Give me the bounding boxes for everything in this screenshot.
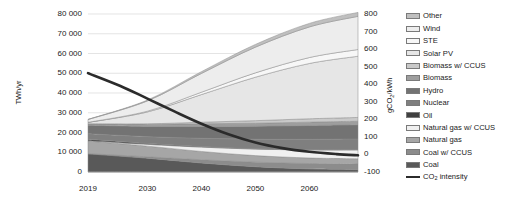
legend-item-label: Hydro (423, 87, 443, 95)
legend-item[interactable]: Natural gas (406, 134, 518, 146)
legend-color-swatch (406, 100, 420, 106)
legend-color-swatch (406, 125, 420, 131)
legend-item[interactable]: STE (406, 35, 518, 47)
legend-color-swatch (406, 50, 420, 56)
legend-color-swatch (406, 13, 420, 19)
y-axis-left-tick: 0 (36, 167, 82, 176)
legend-item-label: Natural gas (423, 136, 462, 144)
legend-item[interactable]: Solar PV (406, 47, 518, 59)
legend-color-swatch (406, 162, 420, 168)
y-axis-right-tick: 800 (364, 9, 394, 18)
legend-item-label: Wind (423, 25, 440, 33)
legend-item-label: Coal (423, 161, 439, 169)
legend-item[interactable]: Nuclear (406, 97, 518, 109)
x-axis-tick: 2060 (289, 184, 329, 193)
legend-color-swatch (406, 26, 420, 32)
y-axis-left-tick: 80 000 (36, 9, 82, 18)
y-axis-right-tick: 0 (364, 149, 394, 158)
x-axis-tick: 2030 (127, 184, 167, 193)
legend-color-swatch (406, 38, 420, 44)
y-axis-left-tick: 10 000 (36, 147, 82, 156)
legend-color-swatch (406, 75, 420, 81)
legend-item[interactable]: Coal (406, 159, 518, 171)
energy-mix-area-chart: TWh/yr gCO2/kWh OtherWindSTESolar PVBiom… (0, 0, 519, 205)
chart-legend: OtherWindSTESolar PVBiomass w/ CCUSBioma… (406, 10, 518, 183)
legend-item-label: Other (423, 12, 442, 20)
legend-color-swatch (406, 63, 420, 69)
y-axis-right-tick: 200 (364, 114, 394, 123)
legend-item[interactable]: Natural gas w/ CCUS (406, 122, 518, 134)
legend-item-label: CO2 intensity (423, 173, 467, 181)
legend-item[interactable]: Biomass w/ CCUS (406, 60, 518, 72)
legend-color-swatch (406, 112, 420, 118)
y-axis-right-tick: 500 (364, 62, 394, 71)
y-axis-right-tick: -100 (364, 167, 394, 176)
legend-item[interactable]: Coal w/ CCUS (406, 146, 518, 158)
legend-color-swatch (406, 137, 420, 143)
y-axis-left-tick: 40 000 (36, 88, 82, 97)
y-axis-right-tick: 300 (364, 97, 394, 106)
y-axis-left-tick: 60 000 (36, 49, 82, 58)
y-axis-right-tick: 600 (364, 44, 394, 53)
legend-item[interactable]: Wind (406, 22, 518, 34)
legend-item-label: Natural gas w/ CCUS (423, 124, 495, 132)
legend-item-label: Oil (423, 112, 432, 120)
y-axis-left-tick: 50 000 (36, 68, 82, 77)
legend-item-label: Nuclear (423, 99, 449, 107)
legend-item[interactable]: Hydro (406, 84, 518, 96)
y-axis-left-tick: 70 000 (36, 29, 82, 38)
legend-item[interactable]: Biomass (406, 72, 518, 84)
legend-item-label: STE (423, 37, 438, 45)
legend-item-label: Solar PV (423, 50, 453, 58)
y-axis-left-tick: 30 000 (36, 108, 82, 117)
x-axis-tick: 2040 (181, 184, 221, 193)
legend-color-swatch (406, 149, 420, 155)
legend-line-marker (406, 174, 420, 180)
y-axis-left-tick: 20 000 (36, 128, 82, 137)
legend-item[interactable]: CO2 intensity (406, 171, 518, 183)
x-axis-tick: 2019 (68, 184, 108, 193)
y-axis-right-tick: 400 (364, 79, 394, 88)
legend-item[interactable]: Oil (406, 109, 518, 121)
y-axis-right-tick: 700 (364, 27, 394, 36)
y-axis-right-tick: 100 (364, 132, 394, 141)
x-axis-tick: 2050 (235, 184, 275, 193)
legend-item-label: Coal w/ CCUS (423, 149, 472, 157)
legend-color-swatch (406, 88, 420, 94)
legend-item[interactable]: Other (406, 10, 518, 22)
legend-item-label: Biomass (423, 74, 452, 82)
legend-item-label: Biomass w/ CCUS (423, 62, 485, 70)
